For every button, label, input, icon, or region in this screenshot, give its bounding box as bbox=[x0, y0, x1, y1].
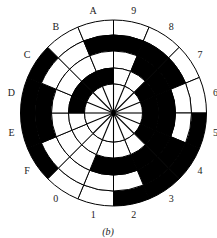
caption-text: (b) bbox=[102, 226, 114, 237]
sector-label-C: C bbox=[24, 50, 31, 60]
sector-label-B: B bbox=[52, 22, 59, 32]
sector-label-5: 5 bbox=[213, 128, 217, 138]
disc-hub bbox=[85, 84, 143, 142]
sector-label-8: 8 bbox=[169, 22, 174, 32]
hub-center-dot bbox=[111, 111, 115, 115]
sector-label-4: 4 bbox=[197, 166, 202, 176]
sector-label-6: 6 bbox=[213, 88, 217, 98]
sector-label-A: A bbox=[90, 6, 97, 16]
figure-caption: (b) bbox=[102, 226, 114, 237]
sector-label-2: 2 bbox=[131, 210, 136, 220]
sector-label-E: E bbox=[8, 128, 14, 138]
sector-label-1: 1 bbox=[91, 210, 96, 220]
sector-label-0: 0 bbox=[53, 194, 58, 204]
sector-label-9: 9 bbox=[131, 6, 136, 16]
sector-label-D: D bbox=[8, 88, 15, 98]
code-disc bbox=[0, 0, 217, 238]
sector-label-3: 3 bbox=[169, 194, 174, 204]
sector-label-F: F bbox=[24, 166, 30, 176]
sector-label-7: 7 bbox=[197, 50, 202, 60]
